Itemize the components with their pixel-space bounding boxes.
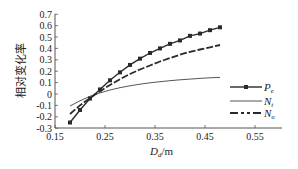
x-tick-label: 0.45 bbox=[196, 131, 214, 142]
square-marker-icon bbox=[244, 85, 248, 89]
series-group bbox=[68, 25, 222, 124]
x-axis-title: Dd/m bbox=[149, 145, 174, 159]
y-axis-title: 相对变化率 bbox=[14, 43, 27, 98]
square-marker-icon bbox=[78, 108, 82, 112]
square-marker-icon bbox=[138, 57, 142, 61]
square-marker-icon bbox=[198, 32, 202, 36]
y-tick-label: 0.3 bbox=[40, 54, 53, 65]
x-axis-title-unit: /m bbox=[161, 145, 173, 157]
square-marker-icon bbox=[168, 42, 172, 46]
y-tick-label: 0.1 bbox=[40, 77, 53, 88]
square-marker-icon bbox=[178, 38, 182, 42]
y-tick-label: 0.4 bbox=[40, 43, 53, 54]
square-marker-icon bbox=[118, 70, 122, 74]
series-line-nt bbox=[70, 77, 220, 106]
square-marker-icon bbox=[188, 34, 192, 38]
x-axis-title-main: D bbox=[149, 145, 158, 157]
legend-label: Pe bbox=[263, 81, 274, 95]
y-tick-label: 0.2 bbox=[40, 66, 53, 77]
y-tick-label: 0.7 bbox=[40, 9, 53, 20]
y-tick-label: 0 bbox=[47, 89, 52, 100]
y-tick-label: 0.6 bbox=[40, 20, 53, 31]
x-tick-label: 0.55 bbox=[246, 131, 264, 142]
x-tick-label: 0.35 bbox=[146, 131, 164, 142]
square-marker-icon bbox=[108, 78, 112, 82]
square-marker-icon bbox=[68, 121, 72, 125]
line-chart: -0.3-0.2-0.100.10.20.30.40.50.60.70.150.… bbox=[0, 0, 298, 169]
square-marker-icon bbox=[128, 63, 132, 67]
series-line-pe bbox=[70, 27, 220, 122]
x-tick-label: 0.25 bbox=[96, 131, 114, 142]
square-marker-icon bbox=[208, 28, 212, 32]
x-tick-label: 0.15 bbox=[46, 131, 64, 142]
y-tick-label: -0.1 bbox=[36, 100, 52, 111]
y-tick-label: 0.5 bbox=[40, 32, 53, 43]
legend: PeNtNu bbox=[230, 81, 275, 121]
square-marker-icon bbox=[158, 46, 162, 50]
square-marker-icon bbox=[148, 51, 152, 55]
legend-label: Nu bbox=[263, 107, 275, 121]
square-marker-icon bbox=[218, 25, 222, 29]
y-tick-label: -0.2 bbox=[36, 111, 52, 122]
axes: -0.3-0.2-0.100.10.20.30.40.50.60.70.150.… bbox=[36, 9, 282, 142]
